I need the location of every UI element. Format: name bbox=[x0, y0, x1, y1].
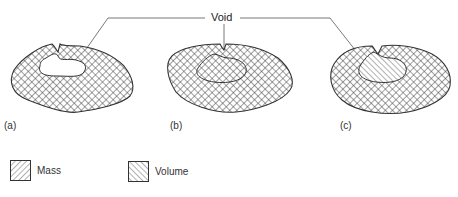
legend-mass: Mass bbox=[10, 160, 61, 181]
void-callout-label: Void bbox=[207, 12, 236, 23]
legend-volume-label: Volume bbox=[155, 166, 188, 177]
void-diagram bbox=[0, 0, 458, 197]
panel-b-label: (b) bbox=[170, 121, 182, 131]
legend-mass-label: Mass bbox=[37, 165, 61, 176]
panel-c-label: (c) bbox=[340, 121, 352, 131]
panel-b-mass-shape bbox=[168, 44, 293, 112]
mass-hatch-icon bbox=[10, 160, 31, 181]
legend-volume: Volume bbox=[128, 161, 188, 182]
panel-c-mass-shape bbox=[331, 45, 451, 113]
volume-hatch-icon bbox=[128, 161, 149, 182]
panel-a-mass-shape bbox=[11, 44, 133, 112]
panel-a-label: (a) bbox=[4, 121, 16, 131]
